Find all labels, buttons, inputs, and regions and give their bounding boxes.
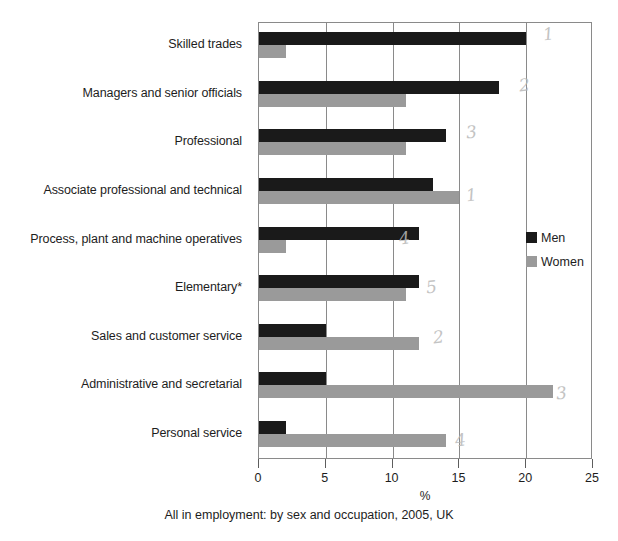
legend-swatch-women-icon — [526, 256, 537, 267]
pencil-annotation: 2 — [432, 326, 445, 347]
category-label: Managers and senior officials — [0, 86, 242, 100]
legend-label-men: Men — [541, 231, 565, 245]
legend-label-women: Women — [541, 255, 584, 269]
category-label: Skilled trades — [0, 37, 242, 51]
bar-women — [259, 337, 419, 350]
bar-men — [259, 32, 526, 45]
x-tick — [525, 459, 526, 468]
x-tick — [458, 459, 459, 468]
bar-women — [259, 240, 286, 253]
chart-caption: All in employment: by sex and occupation… — [0, 508, 618, 522]
x-tick — [592, 459, 593, 468]
category-axis-labels: Skilled tradesManagers and senior offici… — [0, 22, 250, 459]
pencil-annotation: 3 — [465, 121, 478, 142]
x-tick-label: 10 — [372, 471, 412, 485]
x-tick-label: 15 — [438, 471, 478, 485]
bar-women — [259, 434, 446, 447]
bar-men — [259, 81, 499, 94]
bar-women — [259, 45, 286, 58]
x-tick — [392, 459, 393, 468]
category-label: Associate professional and technical — [0, 183, 242, 197]
pencil-annotation: 4 — [398, 227, 411, 248]
category-label: Process, plant and machine operatives — [0, 232, 242, 246]
category-label: Professional — [0, 134, 242, 148]
pencil-annotation: 1 — [542, 23, 555, 44]
pencil-annotation: 5 — [425, 276, 438, 297]
x-tick — [258, 459, 259, 468]
bar-women — [259, 288, 406, 301]
legend-item-men: Men — [526, 228, 588, 247]
x-tick-label: 25 — [572, 471, 612, 485]
bar-men — [259, 178, 433, 191]
pencil-annotation: 4 — [454, 429, 467, 450]
bar-men — [259, 324, 326, 337]
bar-men — [259, 421, 286, 434]
x-tick-label: 20 — [505, 471, 545, 485]
bar-men — [259, 275, 419, 288]
bar-men — [259, 129, 446, 142]
category-label: Elementary* — [0, 280, 242, 294]
category-label: Personal service — [0, 426, 242, 440]
bar-women — [259, 385, 553, 398]
legend: Men Women — [526, 228, 588, 276]
pencil-annotation: 1 — [465, 184, 478, 205]
pencil-annotation: 2 — [518, 74, 531, 95]
category-label: Administrative and secretarial — [0, 377, 242, 391]
bar-women — [259, 94, 406, 107]
x-axis: % 0510152025 — [258, 459, 592, 505]
x-axis-title: % — [258, 489, 592, 503]
x-tick — [325, 459, 326, 468]
bar-women — [259, 142, 406, 155]
legend-swatch-men-icon — [526, 232, 537, 243]
pencil-annotation: 3 — [555, 382, 568, 403]
category-label: Sales and customer service — [0, 329, 242, 343]
x-tick-label: 0 — [238, 471, 278, 485]
bar-men — [259, 372, 326, 385]
bar-chart: Skilled tradesManagers and senior offici… — [0, 0, 618, 541]
bar-men — [259, 227, 419, 240]
bar-women — [259, 191, 459, 204]
legend-item-women: Women — [526, 252, 588, 271]
x-tick-label: 5 — [305, 471, 345, 485]
